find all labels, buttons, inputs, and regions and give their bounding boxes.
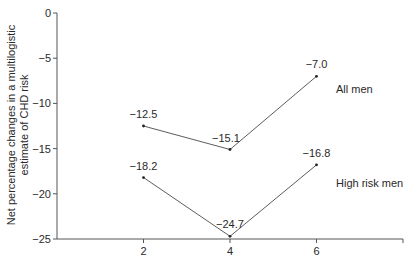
y-tick-label: −25 [32,233,51,245]
data-label: −15.1 [212,132,240,144]
series-label-all-men: All men [336,83,373,95]
x-tick-label: 2 [140,245,146,257]
data-label: −12.5 [130,108,158,120]
x-tick-label: 6 [313,245,319,257]
y-axis-label-line-1: Net percentage changes in a multilogisti… [5,24,17,225]
data-point [142,125,145,128]
chart: 0−5−10−15−20−25246Net percentage changes… [0,0,410,262]
data-point [229,235,232,238]
y-tick-label: −10 [32,97,51,109]
data-point [315,75,318,78]
data-label: −24.7 [216,218,244,230]
y-tick-label: −5 [38,52,51,64]
y-axis-label-line-2: estimate of CHD risk [18,74,30,175]
data-label: −7.0 [306,58,328,70]
y-tick-label: −20 [32,188,51,200]
data-point [229,148,232,151]
data-label: −16.8 [303,147,331,159]
data-label: −18.2 [130,160,158,172]
series-label-high-risk-men: High risk men [336,177,403,189]
x-tick-label: 4 [227,245,233,257]
y-tick-label: 0 [45,7,51,19]
data-point [142,176,145,179]
data-point [315,163,318,166]
y-tick-label: −15 [32,143,51,155]
